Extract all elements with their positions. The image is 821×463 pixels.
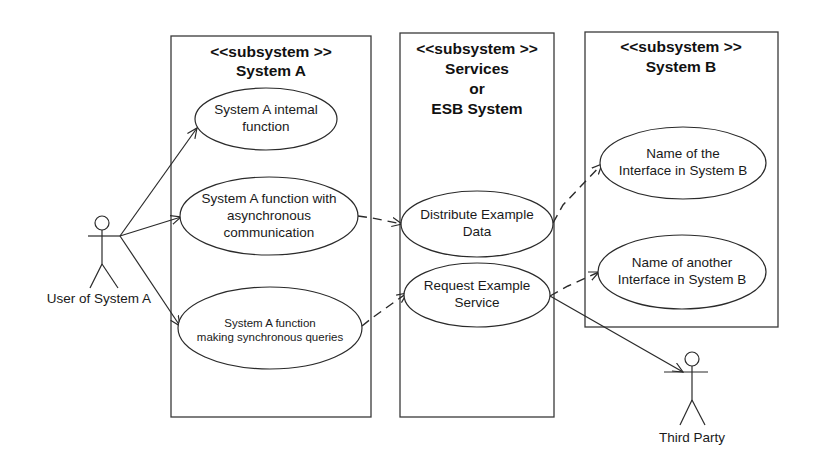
- use-case-sync-queries[interactable]: System A function making synchronous que…: [178, 287, 362, 369]
- use-case-request-example-service[interactable]: Request Example Service: [404, 263, 550, 327]
- stick-figure-icon: [664, 352, 708, 425]
- use-case-label: System A function: [224, 317, 315, 329]
- use-case-label: Interface in System B: [618, 272, 746, 287]
- actor-label: Third Party: [659, 430, 725, 445]
- use-case-async-communication[interactable]: System A function with asynchronous comm…: [180, 177, 358, 255]
- use-case-label: System A function with: [201, 191, 336, 206]
- actor-third-party[interactable]: Third Party: [659, 352, 725, 445]
- subsystem-title-line-1: Services: [445, 60, 509, 77]
- use-case-internal-function[interactable]: System A intemal function: [195, 88, 337, 150]
- use-case-label: Interface in System B: [619, 163, 747, 178]
- use-case-label: Service: [454, 295, 499, 310]
- use-case-label: communication: [224, 225, 315, 240]
- use-case-label: Name of the: [646, 146, 720, 161]
- subsystem-stereotype: <<subsystem >>: [210, 43, 332, 60]
- use-case-label: Data: [463, 224, 492, 239]
- use-case-label: asynchronous: [227, 208, 311, 223]
- use-case-label: function: [242, 119, 289, 134]
- actor-user-of-system-a[interactable]: User of System A: [47, 216, 151, 306]
- use-case-diagram: <<subsystem >> System A <<subsystem >> S…: [0, 0, 821, 463]
- use-case-label: Name of another: [632, 255, 733, 270]
- use-case-interface-system-b[interactable]: Name of the Interface in System B: [600, 127, 766, 199]
- actor-label: User of System A: [47, 291, 151, 306]
- subsystem-title-line-2: or: [469, 80, 485, 97]
- stick-figure-icon: [88, 216, 120, 288]
- subsystem-title: System B: [646, 58, 717, 75]
- subsystem-title-line-3: ESB System: [431, 100, 522, 117]
- use-case-distribute-example-data[interactable]: Distribute Example Data: [401, 191, 553, 257]
- use-case-label: making synchronous queries: [197, 331, 344, 343]
- use-case-another-interface-system-b[interactable]: Name of another Interface in System B: [598, 235, 766, 309]
- subsystem-stereotype: <<subsystem >>: [416, 40, 538, 57]
- subsystem-stereotype: <<subsystem >>: [620, 38, 742, 55]
- use-case-label: Request Example: [424, 278, 531, 293]
- use-case-label: System A intemal: [214, 102, 318, 117]
- use-case-label: Distribute Example: [420, 207, 533, 222]
- subsystem-title: System A: [236, 62, 306, 79]
